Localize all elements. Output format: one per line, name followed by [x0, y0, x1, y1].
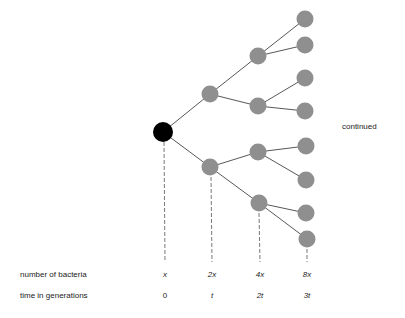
bacterium-gen1 — [202, 159, 219, 176]
time-gen2: 2t — [257, 291, 264, 300]
bacterium-gen2 — [250, 144, 267, 161]
count-gen0: x — [163, 270, 167, 279]
tree-edges — [163, 19, 307, 239]
time-in-generations-label: time in generations — [20, 291, 88, 300]
bacteria-cells — [153, 11, 316, 248]
bacterium-gen3 — [298, 138, 315, 155]
continued-label: continued — [342, 122, 377, 131]
bacterium-gen3 — [297, 70, 314, 87]
bacterium-gen3 — [298, 205, 315, 222]
count-gen1: 2x — [208, 270, 216, 279]
bacterium-gen1 — [202, 86, 219, 103]
count-gen2: 4x — [256, 270, 264, 279]
bacterium-gen2 — [250, 98, 267, 115]
root-bacterium — [153, 122, 173, 142]
bacterium-gen3 — [297, 37, 314, 54]
bacterium-gen3 — [299, 231, 316, 248]
time-gen3: 3t — [304, 291, 311, 300]
count-gen3: 8x — [303, 270, 311, 279]
bacterium-gen3 — [297, 103, 314, 120]
bacterium-gen2 — [251, 195, 268, 212]
number-of-bacteria-label: number of bacteria — [20, 270, 87, 279]
bacterium-gen3 — [298, 172, 315, 189]
time-gen1: t — [211, 291, 213, 300]
time-gen0: 0 — [163, 291, 167, 300]
bacterium-gen2 — [250, 48, 267, 65]
generation-dashed-lines — [164, 142, 307, 262]
bacterium-gen3 — [297, 11, 314, 28]
